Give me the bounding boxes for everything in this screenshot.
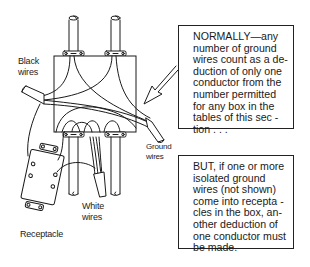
white-wires-label-text: White wires xyxy=(82,201,104,222)
but-callout-text: BUT, if one or more isolated ground wire… xyxy=(193,161,289,254)
receptacle-label: Receptacle xyxy=(20,229,63,240)
normally-callout-box: NORMALLY—any number of ground wires coun… xyxy=(178,25,294,129)
top-right-conduit xyxy=(111,16,120,52)
bottom-left-conduit xyxy=(69,137,78,196)
ground-wires-label: Ground wires xyxy=(146,142,171,162)
but-callout-box: BUT, if one or more isolated ground wire… xyxy=(178,155,294,249)
top-left-clamp xyxy=(63,51,84,56)
bottom-right-clamp xyxy=(105,132,126,137)
ground-wires-bundle xyxy=(146,118,164,143)
normally-callout-text: NORMALLY—any number of ground wires coun… xyxy=(193,31,289,135)
top-left-conduit xyxy=(69,16,78,52)
receptacle xyxy=(19,141,66,213)
callout-arrow-icon xyxy=(144,66,178,104)
ground-wires-label-text: Ground wires xyxy=(146,142,171,161)
white-wires-with-wire-nut xyxy=(90,137,106,197)
receptacle-label-text: Receptacle xyxy=(20,229,63,239)
white-wires-label: White wires xyxy=(82,201,104,223)
bottom-left-clamp xyxy=(63,132,84,137)
top-right-clamp xyxy=(105,51,126,56)
black-wires-label: Black wires xyxy=(18,56,39,78)
bottom-right-conduit xyxy=(111,137,120,196)
black-wires-label-text: Black wires xyxy=(18,56,39,77)
junction-box xyxy=(54,56,136,132)
